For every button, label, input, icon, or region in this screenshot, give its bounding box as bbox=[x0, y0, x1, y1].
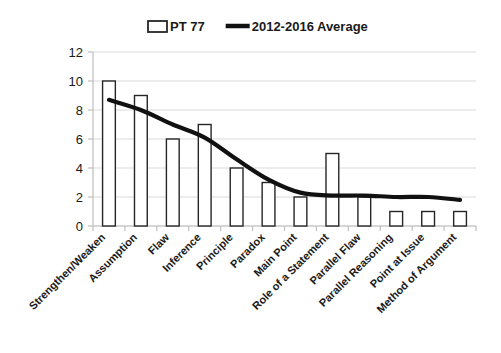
y-tick-label: 8 bbox=[76, 103, 83, 118]
bar-assumption bbox=[134, 96, 147, 227]
bar-parallel-reasoning bbox=[390, 212, 403, 227]
bar-principle bbox=[230, 168, 243, 226]
chart-container: PT 772012-2016 Average 024681012 Strengt… bbox=[0, 0, 501, 353]
bar-paradox bbox=[262, 183, 275, 227]
bar-flaw bbox=[166, 139, 179, 226]
chart-legend: PT 772012-2016 Average bbox=[148, 19, 368, 34]
y-tick-label: 2 bbox=[76, 190, 83, 205]
y-tick-label: 10 bbox=[69, 74, 83, 89]
y-tick-label: 6 bbox=[76, 132, 83, 147]
bar-method-of-argument bbox=[454, 212, 467, 227]
legend-label-0: PT 77 bbox=[170, 19, 205, 34]
bar-role-of-a-statement bbox=[326, 154, 339, 227]
bar-parallel-flaw bbox=[358, 197, 371, 226]
y-tick-label: 12 bbox=[69, 45, 83, 60]
bar-main-point bbox=[294, 197, 307, 226]
legend-label-1: 2012-2016 Average bbox=[252, 19, 368, 34]
y-tick-label: 0 bbox=[76, 219, 83, 234]
grouped-bar-line-chart: PT 772012-2016 Average 024681012 Strengt… bbox=[0, 0, 501, 353]
bar-point-at-issue bbox=[422, 212, 435, 227]
y-tick-label: 4 bbox=[76, 161, 83, 176]
legend-swatch-pt-77 bbox=[148, 21, 167, 32]
